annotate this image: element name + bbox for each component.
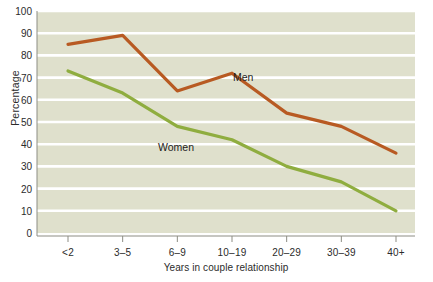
- y-tick-label: 60: [21, 96, 32, 106]
- y-tick-label: 30: [21, 162, 32, 172]
- y-axis-title: Percentage: [9, 58, 21, 138]
- y-tick-label: 70: [21, 74, 32, 84]
- x-axis-title: Years in couple relationship: [37, 262, 415, 273]
- x-tick-label: <2: [62, 247, 74, 258]
- x-tick-label: 20–29: [272, 247, 301, 258]
- series-label-women: Women: [158, 141, 194, 153]
- y-tick-label: 10: [21, 207, 32, 217]
- y-tick-label: 80: [21, 51, 32, 61]
- y-tick-label: 100: [15, 7, 32, 17]
- x-tick-label: 10–19: [218, 247, 247, 258]
- x-tick-labels: <23–56–910–1920–2930–3940+: [0, 240, 433, 260]
- x-tick-label: 6–9: [169, 247, 186, 258]
- y-tick-label: 40: [21, 140, 32, 150]
- y-tick-label: 50: [21, 118, 32, 128]
- y-tick-label: 20: [21, 185, 32, 195]
- x-tick-label: 3–5: [114, 247, 131, 258]
- x-tick-label: 40+: [387, 247, 405, 258]
- series-label-men: Men: [233, 71, 253, 83]
- line-chart: 1009080706050403020100 <23–56–910–1920–2…: [0, 0, 433, 282]
- y-tick-label: 90: [21, 29, 32, 39]
- y-tick-label: 0: [26, 229, 32, 239]
- x-tick-label: 30–39: [327, 247, 356, 258]
